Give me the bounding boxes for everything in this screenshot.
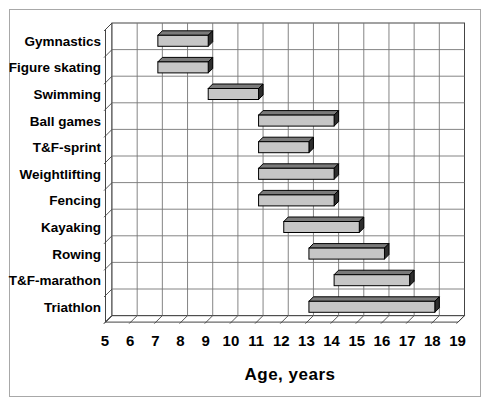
- x-tick-label: 10: [223, 332, 240, 349]
- x-tick-label: 17: [399, 332, 416, 349]
- bar-top-face: [284, 217, 364, 222]
- x-tick-label: 7: [151, 332, 159, 349]
- x-tick-label: 5: [101, 332, 109, 349]
- bar-top-face: [158, 57, 213, 62]
- bar-front-face: [158, 62, 208, 73]
- bar-front-face: [259, 195, 335, 206]
- x-tick-label: 18: [424, 332, 441, 349]
- x-tick-label: 12: [273, 332, 290, 349]
- bar-front-face: [259, 168, 335, 179]
- chart-generated-layer: GymnasticsFigure skatingSwimmingBall gam…: [9, 10, 481, 397]
- category-label: Triathlon: [44, 300, 101, 315]
- category-label: Ball games: [30, 114, 101, 129]
- bar-front-face: [284, 222, 360, 233]
- bar-top-face: [259, 164, 339, 169]
- bar-top-face: [309, 297, 439, 302]
- bar-front-face: [309, 301, 435, 312]
- x-tick-label: 11: [248, 332, 264, 349]
- category-label: Fencing: [49, 193, 101, 208]
- category-label: Weightlifting: [20, 167, 101, 182]
- bar-top-face: [334, 270, 414, 275]
- age-range-chart: GymnasticsFigure skatingSwimmingBall gam…: [0, 0, 492, 407]
- bar-front-face: [259, 142, 309, 153]
- category-label: Figure skating: [9, 60, 101, 75]
- category-label: Gymnastics: [24, 34, 101, 49]
- x-tick-label: 14: [323, 332, 340, 349]
- category-label: T&F-marathon: [9, 273, 101, 288]
- bar-front-face: [309, 248, 385, 259]
- x-tick-label: 16: [374, 332, 391, 349]
- bar-top-face: [309, 244, 389, 249]
- bar-top-face: [259, 190, 339, 195]
- x-tick-label: 6: [126, 332, 134, 349]
- category-label: Rowing: [52, 247, 101, 262]
- category-label: Kayaking: [41, 220, 101, 235]
- x-tick-label: 13: [298, 332, 315, 349]
- bar-front-face: [259, 115, 335, 126]
- category-label: T&F-sprint: [33, 140, 102, 155]
- bar-front-face: [158, 35, 208, 46]
- x-tick-label: 8: [176, 332, 184, 349]
- plot-left-wall: [106, 23, 113, 322]
- x-axis-title: Age, years: [245, 365, 336, 384]
- bar-front-face: [334, 275, 410, 286]
- bar-top-face: [259, 111, 339, 116]
- x-tick-label: 15: [348, 332, 365, 349]
- bar-top-face: [158, 31, 213, 36]
- chart-frame: GymnasticsFigure skatingSwimmingBall gam…: [0, 0, 492, 407]
- bar-top-face: [208, 84, 263, 89]
- x-tick-label: 19: [449, 332, 466, 349]
- bar-front-face: [208, 89, 258, 100]
- x-tick-label: 9: [202, 332, 210, 349]
- category-label: Swimming: [33, 87, 101, 102]
- bar-top-face: [259, 137, 314, 142]
